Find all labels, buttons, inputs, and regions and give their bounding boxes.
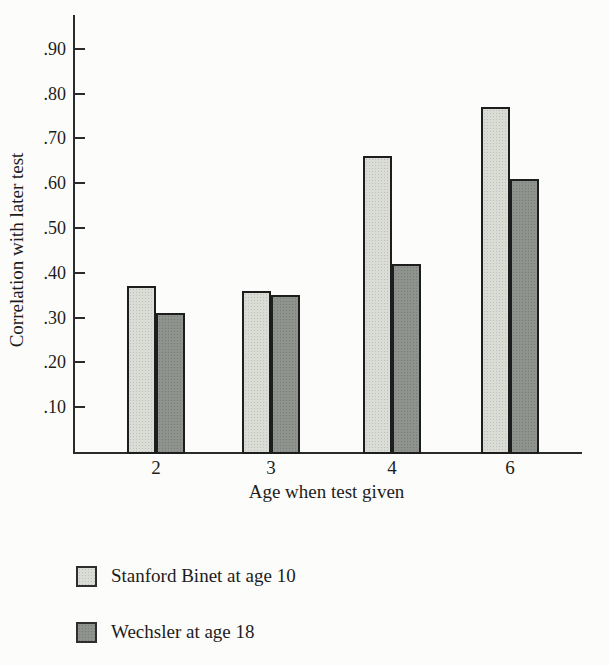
legend-swatch-light-icon [76, 566, 97, 587]
bar-wechsler-age-2 [156, 313, 185, 454]
y-tick-mark [75, 227, 85, 229]
y-tick-label: .80 [16, 83, 66, 105]
x-axis-title: Age when test given [73, 481, 580, 503]
bar-stanford-binet-age-2 [127, 286, 156, 454]
x-category-label: 2 [134, 457, 178, 479]
x-category-label: 6 [488, 457, 532, 479]
y-tick-label: .60 [16, 172, 66, 194]
y-tick-label: .30 [16, 307, 66, 329]
legend-label-wechsler: Wechsler at age 18 [111, 621, 255, 643]
y-tick-label: .20 [16, 351, 66, 373]
bar-wechsler-age-3 [271, 295, 300, 454]
y-tick-mark [75, 48, 85, 50]
bar-chart-figure: Correlation with later test .10.20.30.40… [0, 0, 609, 665]
x-category-label: 4 [370, 457, 414, 479]
y-tick-mark [75, 93, 85, 95]
y-tick-mark [75, 272, 85, 274]
legend-item-stanford-binet: Stanford Binet at age 10 [76, 564, 296, 588]
legend-label-stanford-binet: Stanford Binet at age 10 [111, 565, 296, 587]
y-tick-label: .50 [16, 217, 66, 239]
bar-stanford-binet-age-4 [363, 156, 392, 454]
y-tick-mark [75, 361, 85, 363]
legend-swatch-dark-icon [76, 622, 97, 643]
x-category-label: 3 [249, 457, 293, 479]
bar-stanford-binet-age-3 [242, 291, 271, 454]
y-tick-label: .40 [16, 262, 66, 284]
y-tick-mark [75, 406, 85, 408]
bar-stanford-binet-age-6 [481, 107, 510, 454]
y-tick-label: .10 [16, 396, 66, 418]
bar-wechsler-age-4 [392, 264, 421, 454]
y-tick-mark [75, 182, 85, 184]
bar-wechsler-age-6 [510, 179, 539, 454]
y-tick-mark [75, 137, 85, 139]
y-tick-label: .90 [16, 38, 66, 60]
y-tick-mark [75, 317, 85, 319]
y-tick-label: .70 [16, 127, 66, 149]
legend-item-wechsler: Wechsler at age 18 [76, 620, 255, 644]
